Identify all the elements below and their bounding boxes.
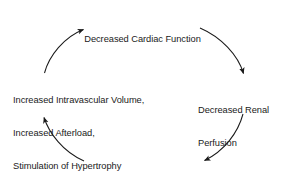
diagram-canvas: Decreased Cardiac Function Decreased Ren… [0,0,285,189]
node-label-line: Perfusion [198,138,269,149]
node-decreased-renal-perfusion: Decreased Renal Perfusion [198,83,269,171]
node-label-line: Increased Afterload, [13,128,144,139]
node-label-line: Decreased Cardiac Function [0,34,285,45]
node-decreased-cardiac-function: Decreased Cardiac Function [0,12,285,67]
node-label-line: Decreased Renal [198,105,269,116]
node-label-line: Stimulation of Hypertrophy [13,161,144,172]
node-increased-intravascular-volume: Increased Intravascular Volume, Increase… [13,73,144,189]
node-label-line: Increased Intravascular Volume, [13,95,144,106]
